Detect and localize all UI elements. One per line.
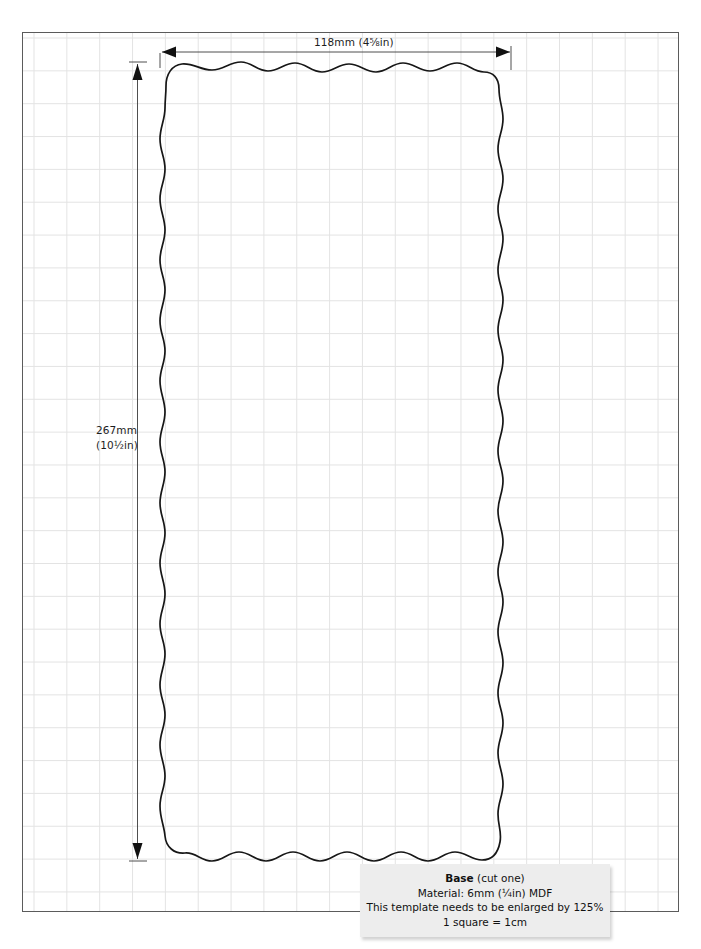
height-dimension-in: (10½in) (96, 438, 138, 453)
height-dimension-mm: 267mm (96, 423, 138, 438)
height-dimension-label: 267mm (10½in) (96, 423, 138, 453)
template-sheet (22, 32, 679, 912)
caption-title-line: Base (cut one) (366, 871, 604, 886)
caption-material: Material: 6mm (¼in) MDF (366, 886, 604, 901)
caption-enlarge-note: This template needs to be enlarged by 12… (366, 900, 604, 915)
caption-scale-note: 1 square = 1cm (366, 915, 604, 930)
grid-background (23, 33, 678, 911)
caption-title-suffix: (cut one) (474, 872, 525, 884)
width-dimension-label: 118mm (4⅝in) (314, 36, 394, 48)
caption-title: Base (445, 872, 473, 884)
template-caption-box: Base (cut one) Material: 6mm (¼in) MDF T… (360, 864, 610, 937)
